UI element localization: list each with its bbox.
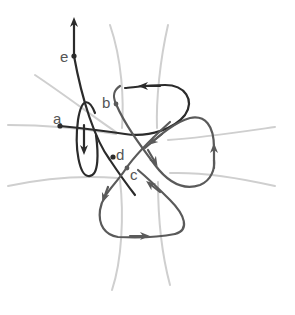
faint-background-curves <box>8 25 275 290</box>
label-a: a <box>53 110 62 127</box>
knot-diagram: e a b d c <box>0 0 295 315</box>
label-e: e <box>60 48 68 65</box>
point-c <box>125 166 130 171</box>
point-e <box>71 53 76 58</box>
strand-bottom-right-loop <box>138 170 184 234</box>
label-b: b <box>102 94 110 111</box>
label-c: c <box>130 166 138 183</box>
label-d: d <box>116 146 124 163</box>
point-b <box>114 102 119 107</box>
point-d <box>110 154 115 159</box>
